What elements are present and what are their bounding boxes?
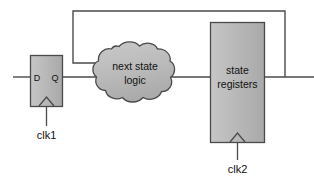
port-label-d: D bbox=[34, 73, 41, 83]
state-registers-label-line2: registers bbox=[217, 78, 257, 90]
next-state-logic-cloud: next state logic bbox=[93, 42, 175, 102]
state-registers: state registers bbox=[211, 23, 265, 143]
clk2-label: clk2 bbox=[228, 163, 248, 175]
cloud-label-line2: logic bbox=[124, 74, 146, 86]
state-registers-label-line1: state bbox=[226, 64, 249, 76]
d-flip-flop: D Q bbox=[31, 56, 63, 107]
diagram-canvas: D Q clk1 next state logic state register… bbox=[0, 0, 314, 180]
block-diagram: D Q clk1 next state logic state register… bbox=[0, 0, 314, 180]
port-label-q: Q bbox=[51, 73, 58, 83]
cloud-label-line1: next state bbox=[112, 60, 158, 72]
clk1-label: clk1 bbox=[37, 129, 57, 141]
